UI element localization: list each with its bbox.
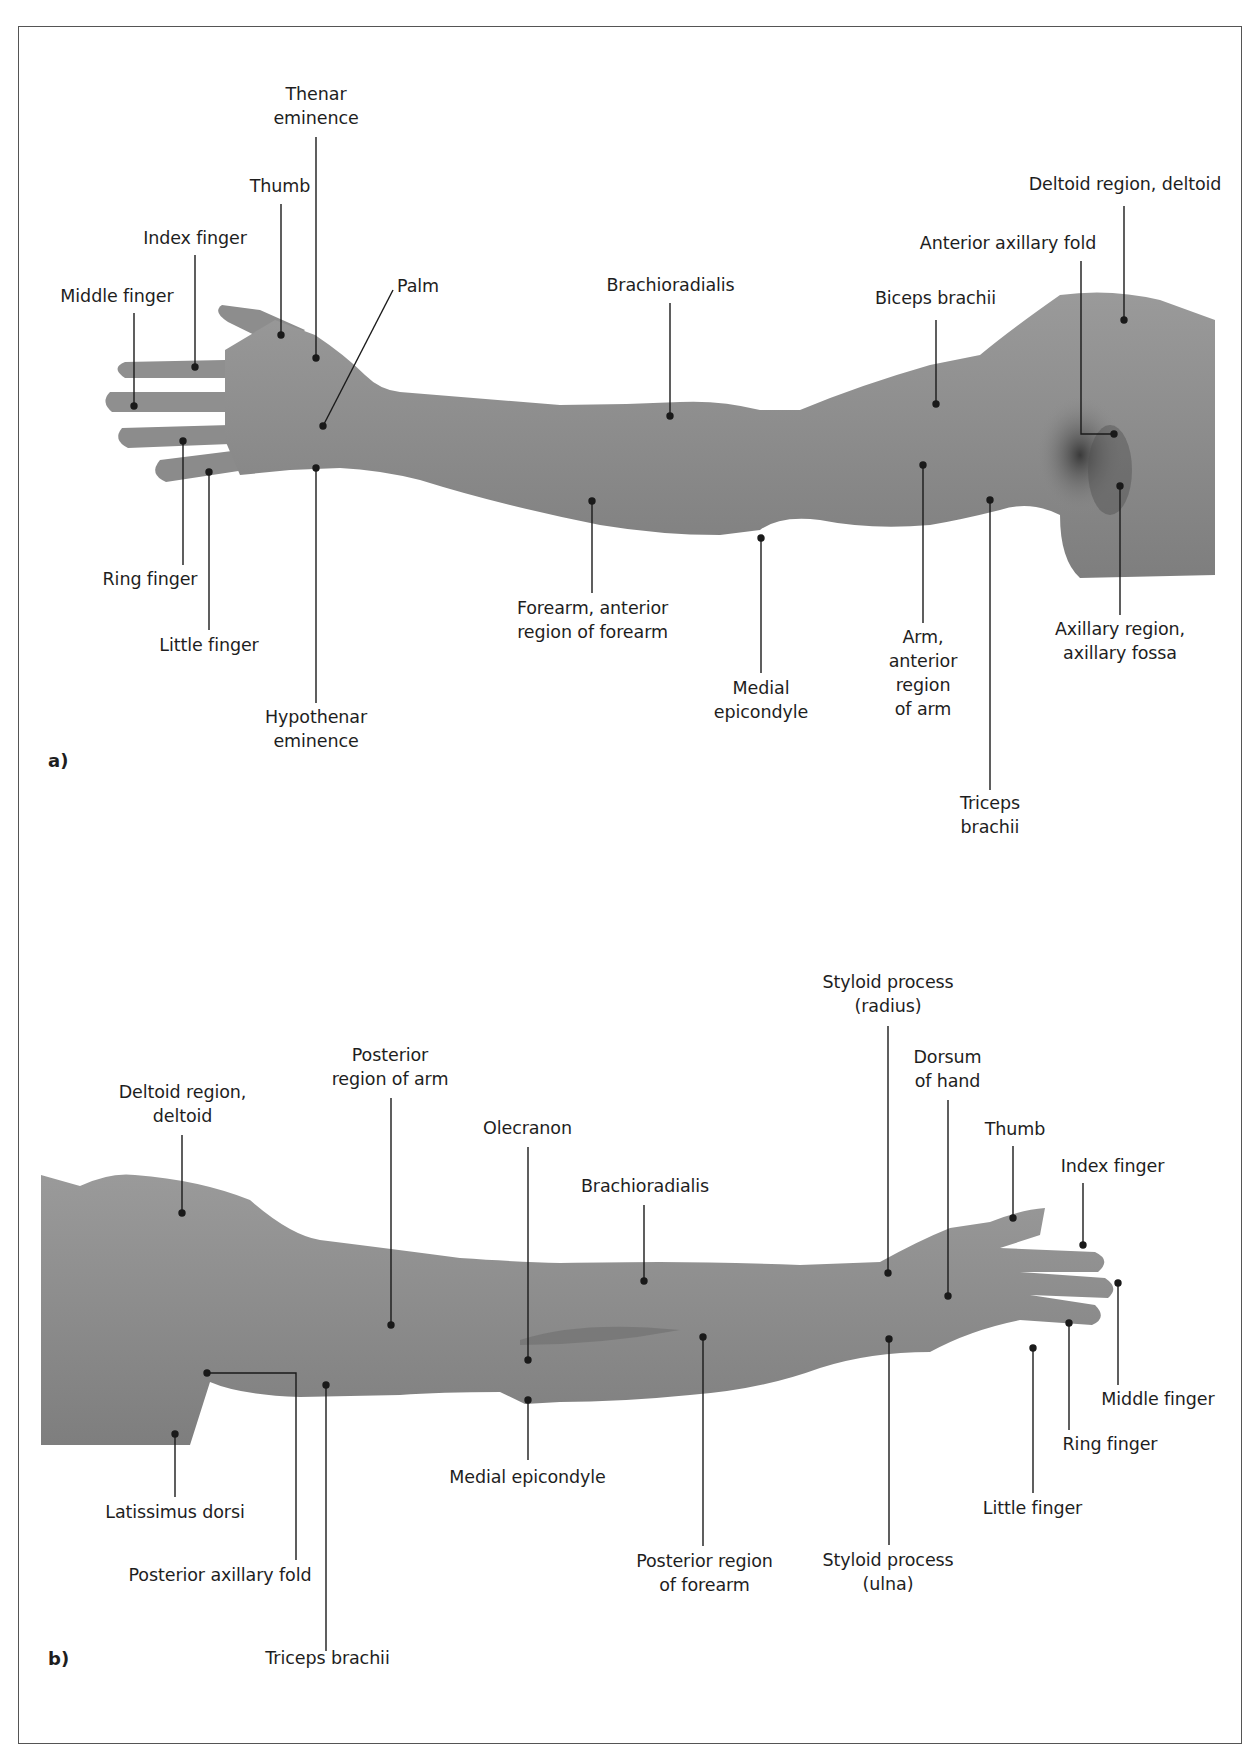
label-line: (radius) <box>808 994 968 1018</box>
label-line: Axillary region, <box>1040 617 1200 641</box>
label-little-finger: Little finger <box>150 633 268 657</box>
label-line: deltoid <box>100 1104 265 1128</box>
label-olecranon: Olecranon <box>470 1116 585 1140</box>
label-index-finger: Index finger <box>135 226 255 250</box>
label-posterior-forearm: Posterior region of forearm <box>622 1549 787 1597</box>
label-triceps-brachii: Triceps brachii <box>255 1646 400 1670</box>
label-posterior-axillary-fold: Posterior axillary fold <box>125 1563 315 1587</box>
arm-illustrations <box>0 0 1259 1754</box>
panel-tag-a: a) <box>48 750 68 771</box>
label-palm: Palm <box>388 274 448 298</box>
label-line: anterior <box>880 649 966 673</box>
label-triceps-brachii: Triceps brachii <box>945 791 1035 839</box>
label-line: of arm <box>880 697 966 721</box>
label-latissimus-dorsi: Latissimus dorsi <box>100 1500 250 1524</box>
label-forearm-anterior: Forearm, anterior region of forearm <box>500 596 685 644</box>
label-line: region of forearm <box>500 620 685 644</box>
label-medial-epicondyle: Medial epicondyle <box>705 676 817 724</box>
label-line: Triceps <box>945 791 1035 815</box>
label-line: Forearm, anterior <box>500 596 685 620</box>
label-line: axillary fossa <box>1040 641 1200 665</box>
label-brachioradialis: Brachioradialis <box>583 273 758 297</box>
label-little-finger: Little finger <box>975 1496 1090 1520</box>
label-medial-epicondyle: Medial epicondyle <box>440 1465 615 1489</box>
label-line: Styloid process <box>808 1548 968 1572</box>
label-line: Arm, <box>880 625 966 649</box>
label-deltoid: Deltoid region, deltoid <box>1020 172 1230 196</box>
label-line: Posterior region <box>622 1549 787 1573</box>
label-line: Medial <box>705 676 817 700</box>
panel-b-arm-silhouette <box>41 1174 1113 1445</box>
label-styloid-ulna: Styloid process (ulna) <box>808 1548 968 1596</box>
label-line: epicondyle <box>705 700 817 724</box>
label-line: Styloid process <box>808 970 968 994</box>
label-line: (ulna) <box>808 1572 968 1596</box>
label-arm-anterior: Arm, anterior region of arm <box>880 625 966 721</box>
label-deltoid: Deltoid region, deltoid <box>100 1080 265 1128</box>
label-styloid-radius: Styloid process (radius) <box>808 970 968 1018</box>
label-index-finger: Index finger <box>1050 1154 1175 1178</box>
label-thumb: Thumb <box>980 1117 1050 1141</box>
label-line: Posterior <box>325 1043 455 1067</box>
label-line: region of arm <box>325 1067 455 1091</box>
label-middle-finger: Middle finger <box>1093 1387 1223 1411</box>
label-line: Deltoid region, <box>100 1080 265 1104</box>
label-line: brachii <box>945 815 1035 839</box>
label-line: of forearm <box>622 1573 787 1597</box>
label-thenar-eminence: Thenar eminence <box>268 82 364 130</box>
label-hypothenar-eminence: Hypothenar eminence <box>255 705 377 753</box>
label-axillary-region: Axillary region, axillary fossa <box>1040 617 1200 665</box>
label-thumb: Thumb <box>244 174 316 198</box>
label-line: eminence <box>255 729 377 753</box>
panel-tag-b: b) <box>48 1648 69 1669</box>
label-line: Hypothenar <box>255 705 377 729</box>
label-anterior-axillary-fold: Anterior axillary fold <box>908 231 1108 255</box>
label-brachioradialis: Brachioradialis <box>565 1174 725 1198</box>
panel-a-arm-silhouette <box>105 292 1215 578</box>
label-middle-finger: Middle finger <box>52 284 182 308</box>
label-ring-finger: Ring finger <box>95 567 205 591</box>
label-ring-finger: Ring finger <box>1055 1432 1165 1456</box>
label-line: Thenar <box>268 82 364 106</box>
label-line: of hand <box>905 1069 990 1093</box>
label-line: Dorsum <box>905 1045 990 1069</box>
label-dorsum-hand: Dorsum of hand <box>905 1045 990 1093</box>
label-biceps-brachii: Biceps brachii <box>858 286 1013 310</box>
label-posterior-arm: Posterior region of arm <box>325 1043 455 1091</box>
label-line: eminence <box>268 106 364 130</box>
label-line: region <box>880 673 966 697</box>
